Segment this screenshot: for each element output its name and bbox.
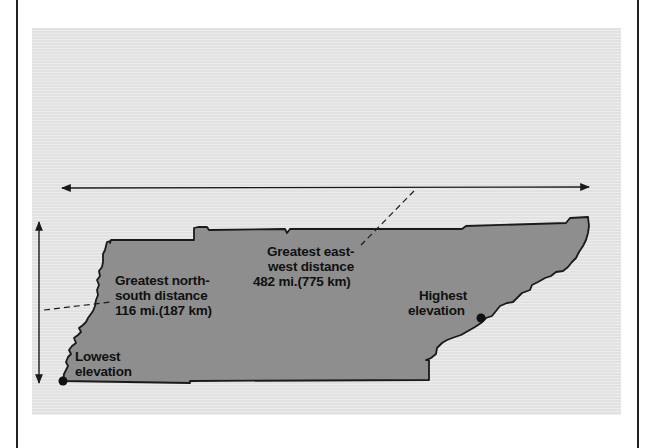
- highest-elevation-point: [477, 314, 486, 323]
- east-west-label-line1: Greatest east-: [253, 244, 354, 259]
- tennessee-map: [0, 0, 650, 448]
- highest-label-line1: Highest: [408, 288, 467, 303]
- north-south-label: Greatest north- south distance 116 mi.(1…: [115, 273, 212, 318]
- highest-label-line2: elevation: [408, 303, 467, 318]
- east-west-label: Greatest east- west distance 482 mi.(775…: [253, 244, 354, 289]
- north-south-label-line2: south distance: [115, 288, 212, 303]
- east-west-arrow: [62, 187, 589, 188]
- lowest-elevation-label: Lowest elevation: [75, 349, 132, 379]
- highest-elevation-label: Highest elevation: [408, 288, 467, 318]
- north-south-label-line3: 116 mi.(187 km): [115, 303, 212, 318]
- lowest-elevation-point: [59, 377, 68, 386]
- east-west-label-line3: 482 mi.(775 km): [253, 274, 354, 289]
- lowest-label-line2: elevation: [75, 364, 132, 379]
- lowest-label-line1: Lowest: [75, 349, 132, 364]
- east-west-label-line2: west distance: [253, 259, 354, 274]
- north-south-label-line1: Greatest north-: [115, 273, 212, 288]
